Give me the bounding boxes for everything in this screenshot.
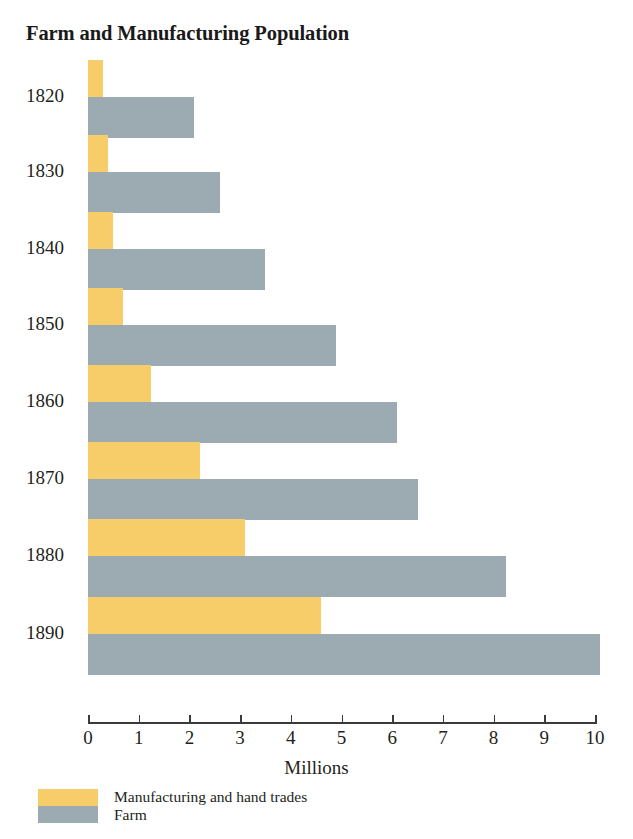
- legend-swatch-farm: [38, 806, 98, 823]
- bar-farm: [88, 325, 336, 366]
- x-axis-tick: [240, 715, 242, 724]
- x-axis-tick-label: 6: [387, 727, 397, 749]
- x-axis-tick-label: 1: [134, 727, 144, 749]
- bar-manufacturing: [88, 135, 108, 172]
- x-axis-tick-label: 7: [438, 727, 448, 749]
- x-axis-tick-label: 8: [489, 727, 499, 749]
- year-label: 1870: [26, 467, 84, 489]
- legend-swatch-manufacturing: [38, 789, 98, 806]
- chart-legend: Manufacturing and hand trades Farm: [38, 788, 438, 830]
- bar-farm: [88, 249, 265, 290]
- bar-farm: [88, 172, 220, 213]
- x-axis-tick: [544, 715, 546, 724]
- bar-group: 1860: [0, 365, 633, 443]
- bar-group: 1880: [0, 519, 633, 597]
- year-label: 1820: [26, 85, 84, 107]
- bar-farm: [88, 556, 506, 597]
- bar-manufacturing: [88, 597, 321, 634]
- x-axis-tick: [494, 715, 496, 724]
- legend-label-manufacturing: Manufacturing and hand trades: [114, 788, 307, 806]
- x-axis-tick: [189, 715, 191, 724]
- x-axis-tick: [342, 715, 344, 724]
- legend-label-farm: Farm: [114, 806, 147, 824]
- bar-group: 1830: [0, 135, 633, 213]
- x-axis-tick-label: 9: [540, 727, 550, 749]
- x-axis-tick: [392, 715, 394, 724]
- bar-farm: [88, 634, 600, 675]
- bar-group: 1850: [0, 288, 633, 366]
- x-axis-tick: [291, 715, 293, 724]
- x-axis-tick: [595, 715, 597, 724]
- x-axis-tick-label: 5: [337, 727, 347, 749]
- bar-group: 1870: [0, 442, 633, 520]
- bar-group: 1890: [0, 597, 633, 675]
- x-axis-tick-label: 2: [185, 727, 195, 749]
- bar-manufacturing: [88, 212, 113, 249]
- bar-group: 1840: [0, 212, 633, 290]
- x-axis-tick: [443, 715, 445, 724]
- x-axis-tick-label: 10: [586, 727, 605, 749]
- legend-swatches: [38, 789, 98, 823]
- chart-container: Farm and Manufacturing Population 182018…: [0, 0, 633, 839]
- x-axis-tick: [88, 715, 90, 724]
- bar-manufacturing: [88, 519, 245, 556]
- bar-farm: [88, 97, 194, 138]
- year-label: 1860: [26, 390, 84, 412]
- x-axis-tick-label: 4: [286, 727, 296, 749]
- chart-title: Farm and Manufacturing Population: [26, 22, 349, 45]
- year-label: 1840: [26, 237, 84, 259]
- bar-group: 1820: [0, 60, 633, 138]
- x-axis: 012345678910: [0, 722, 633, 762]
- bar-farm: [88, 479, 418, 520]
- year-label: 1890: [26, 622, 84, 644]
- bar-manufacturing: [88, 60, 103, 97]
- bar-manufacturing: [88, 288, 123, 325]
- bar-manufacturing: [88, 442, 200, 479]
- year-label: 1880: [26, 544, 84, 566]
- x-axis-tick-label: 3: [235, 727, 245, 749]
- x-axis-tick-label: 0: [83, 727, 93, 749]
- year-label: 1850: [26, 313, 84, 335]
- plot-area: 18201830184018501860187018801890: [0, 60, 633, 722]
- bar-farm: [88, 402, 397, 443]
- year-label: 1830: [26, 160, 84, 182]
- bar-manufacturing: [88, 365, 151, 402]
- x-axis-title: Millions: [0, 757, 633, 779]
- x-axis-tick: [139, 715, 141, 724]
